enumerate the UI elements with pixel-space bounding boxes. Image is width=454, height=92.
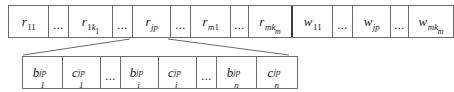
ellipsis-cell-2: ... [113, 6, 133, 37]
connector-line-right [168, 39, 289, 55]
ellipsis-label: ... [175, 18, 186, 33]
gene-cell-cn-jp[interactable]: cjpn [257, 57, 297, 88]
ellipsis-label: ... [201, 69, 212, 84]
gene-label-wjp: wjp [364, 15, 380, 28]
ellipsis-cell-1: ... [49, 6, 69, 37]
ellipsis-cell-b1: ... [101, 57, 121, 88]
gene-label-rmkm: rmkm [259, 15, 280, 28]
gene-cell-b1-jp[interactable]: bjp1 [23, 57, 63, 88]
ellipsis-label: ... [337, 18, 348, 33]
gene-cell-rmkm[interactable]: rmkm [249, 6, 293, 37]
gene-cell-wjp[interactable]: wjp [353, 6, 391, 37]
gene-label-bn-jp: bjpn [227, 65, 247, 81]
gene-cell-c1-jp[interactable]: cjp1 [63, 57, 101, 88]
gene-cell-r1km[interactable]: r1k1 [69, 6, 113, 37]
ellipsis-cell-5: ... [333, 6, 353, 37]
gene-cell-ci-jp[interactable]: cjpi [159, 57, 197, 88]
gene-cell-bn-jp[interactable]: bjpn [217, 57, 257, 88]
gene-cell-bi-jp[interactable]: bjpi [121, 57, 159, 88]
connector-line-left [23, 39, 130, 55]
gene-label-r11: r11 [22, 15, 36, 28]
gene-label-cn-jp: cjpn [268, 65, 287, 81]
ellipsis-label: ... [234, 18, 245, 33]
gene-label-b1-jp: bjp1 [33, 65, 53, 81]
ellipsis-label: ... [117, 18, 128, 33]
expanded-sub-chromosome-row: bjp1 cjp1 ... bjpi cjpi ... bjpn cjpn [22, 56, 298, 89]
gene-label-c1-jp: cjp1 [72, 65, 91, 81]
gene-label-w11: w11 [304, 15, 321, 28]
gene-cell-w11[interactable]: w11 [293, 6, 333, 37]
gene-label-rjp: rjp [145, 15, 157, 28]
ellipsis-label: ... [53, 18, 64, 33]
gene-label-ci-jp: cjpi [168, 65, 187, 81]
gene-label-wmkm: wmkm [419, 15, 444, 28]
gene-label-r1k1: r1k1 [82, 15, 100, 28]
ellipsis-cell-6: ... [391, 6, 409, 37]
top-level-chromosome-row: r11 ... r1k1 ... rjp ... rm1 ... rmkm w1… [8, 5, 454, 38]
gene-cell-rm1[interactable]: rm1 [191, 6, 231, 37]
ellipsis-cell-4: ... [231, 6, 249, 37]
ellipsis-label: ... [105, 69, 116, 84]
gene-cell-r11[interactable]: r11 [9, 6, 49, 37]
gene-cell-rjp[interactable]: rjp [133, 6, 171, 37]
gene-cell-wmkm[interactable]: wmkm [409, 6, 453, 37]
ellipsis-cell-3: ... [171, 6, 191, 37]
gene-label-bi-jp: bjpi [130, 65, 150, 81]
ellipsis-label: ... [394, 18, 405, 33]
ellipsis-cell-b2: ... [197, 57, 217, 88]
gene-label-rm1: rm1 [202, 15, 218, 28]
